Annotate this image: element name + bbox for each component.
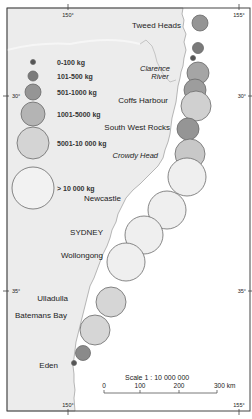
scale-tick-label: 0 [102, 382, 106, 389]
place-label: Batemans Bay [15, 311, 67, 320]
place-label: South West Rocks [104, 123, 170, 132]
place-label: River [151, 72, 169, 81]
place-label: Eden [39, 361, 58, 370]
catch-circle [168, 158, 206, 196]
place-label: Tweed Heads [132, 21, 181, 30]
legend-symbol [12, 167, 54, 209]
catch-circle [72, 361, 77, 366]
place-label: Coffs Harbour [118, 96, 168, 105]
catch-circle [76, 346, 91, 361]
place-label: Crowdy Head [113, 151, 159, 160]
place-label: Wollongong [61, 251, 103, 260]
left-tick-label: 30° [12, 93, 20, 99]
top-tick-label: 150° [62, 12, 73, 18]
right-tick-label: 30° [238, 93, 246, 99]
legend-symbol [25, 84, 41, 100]
scale-tick-label: 100 [135, 382, 146, 389]
legend-symbol [28, 71, 38, 81]
scale-tick-label: 200 [174, 382, 185, 389]
catch-circle [191, 56, 196, 61]
place-label: Ulladulla [37, 294, 68, 303]
legend-label: 0-100 kg [57, 59, 85, 67]
catch-circle [193, 43, 204, 54]
top-tick-label: 155° [233, 12, 244, 18]
catch-distribution-map: 150°155°150°155°30°35°30°35° 0-100 kg101… [0, 0, 252, 419]
place-label: Newcastle [84, 194, 121, 203]
left-tick-label: 35° [12, 288, 20, 294]
legend-symbol [31, 60, 36, 65]
legend-label: 501-1000 kg [57, 89, 97, 97]
catch-circle [80, 315, 110, 345]
legend-label: 101-500 kg [57, 73, 93, 81]
catch-circle [181, 91, 211, 121]
legend-label: 5001-10 000 kg [57, 140, 106, 148]
legend-label: 1001-5000 kg [57, 111, 101, 119]
right-tick-label: 35° [238, 288, 246, 294]
catch-circle [177, 118, 199, 140]
bottom-tick-label: 155° [233, 402, 244, 408]
catch-circle [107, 243, 145, 281]
place-label: SYDNEY [70, 228, 104, 237]
catch-circle [96, 287, 126, 317]
catch-circle [192, 15, 208, 31]
legend-symbol [17, 127, 49, 159]
bottom-tick-label: 150° [62, 402, 73, 408]
legend-symbol [21, 102, 45, 126]
scale-title: Scale 1 : 10 000 000 [125, 374, 189, 381]
legend-label: > 10 000 kg [57, 185, 95, 193]
scale-tick-label: 300 km [214, 382, 235, 389]
